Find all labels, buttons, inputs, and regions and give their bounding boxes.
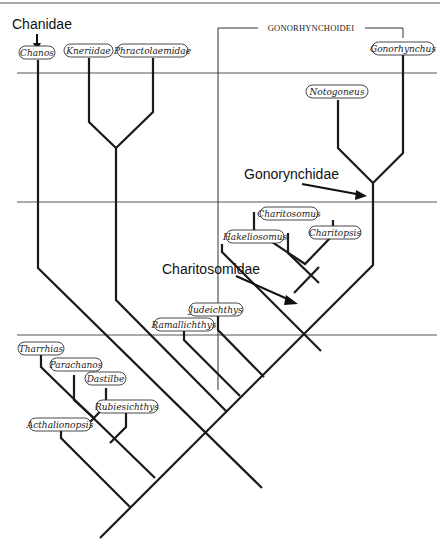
branch-charitopsis [288, 233, 319, 283]
branch-judeichthys [218, 315, 264, 377]
taxon-notogoneus: Notogoneus [306, 85, 368, 98]
branch-kneriid-stem [116, 148, 227, 412]
taxon-hakeliosomus: Hakeliosomus [222, 230, 288, 243]
svg-text:Notogoneus: Notogoneus [308, 87, 364, 97]
gonorynchidae-arrow-shaft [302, 184, 362, 195]
svg-text:Judeichthys: Judeichthys [187, 305, 243, 315]
taxon-kneriidae: Kneriidae [64, 44, 113, 57]
branch-gonorynchidae [338, 52, 403, 183]
taxon-tharrhias: Tharrhias [18, 342, 64, 355]
cladogram-svg: GONORHYNCHOIDEI Chanidae Gonorynchidae C… [0, 0, 446, 550]
taxon-phractolaemidae: Phractolaemidae [113, 44, 191, 57]
taxon-dastilbe: Dastilbe [85, 372, 126, 385]
taxon-ramallichthys: Ramallichthys [151, 318, 217, 331]
branch-ramallichthys [184, 329, 240, 396]
taxon-gonorhynchus: Gonorhynchus [370, 42, 436, 55]
cladogram-figure: GONORHYNCHOIDEI Chanidae Gonorynchidae C… [0, 0, 446, 550]
svg-text:Kneriidae: Kneriidae [65, 46, 110, 56]
gonorhynchoidei-bracket-right [365, 28, 403, 38]
taxon-judeichthys: Judeichthys [187, 303, 243, 316]
svg-text:Rubiesichthys: Rubiesichthys [94, 402, 159, 412]
taxon-acthalionopsis: Acthalionopsis [26, 418, 94, 431]
charitosomidae-arrow-head [284, 295, 298, 305]
taxon-charitopsis: Charitopsis [309, 226, 362, 239]
taxon-chanos: Chanos [19, 46, 55, 59]
svg-text:Tharrhias: Tharrhias [19, 344, 64, 354]
svg-text:Acthalionopsis: Acthalionopsis [26, 420, 94, 430]
svg-text:Chanos: Chanos [20, 48, 54, 58]
svg-text:Charitopsis: Charitopsis [309, 228, 362, 238]
svg-text:Parachanos: Parachanos [49, 360, 103, 370]
svg-text:Gonorhynchus: Gonorhynchus [370, 44, 436, 54]
svg-text:Dastilbe: Dastilbe [86, 374, 125, 384]
gonorynchidae-arrow-head [355, 190, 367, 200]
svg-text:Charitosomus: Charitosomus [257, 209, 321, 219]
taxon-charitosomus: Charitosomus [257, 207, 321, 220]
gonorynchidae-label: Gonorynchidae [244, 166, 339, 182]
svg-text:Ramallichthys: Ramallichthys [151, 320, 217, 330]
gonorhynchoidei-label: GONORHYNCHOIDEI [268, 23, 355, 33]
charitosomidae-arrow-shaft [236, 276, 292, 301]
chanidae-label: Chanidae [12, 16, 72, 32]
branch-rubiesichthys [110, 413, 126, 443]
taxon-parachanos: Parachanos [49, 358, 103, 371]
taxon-rubiesichthys: Rubiesichthys [94, 400, 159, 413]
branch-kneriidae-phractolaemidae [89, 58, 153, 148]
charitosomidae-label: Charitosomidae [162, 261, 260, 277]
svg-text:Hakeliosomus: Hakeliosomus [222, 232, 288, 242]
svg-text:Phractolaemidae: Phractolaemidae [113, 46, 191, 56]
